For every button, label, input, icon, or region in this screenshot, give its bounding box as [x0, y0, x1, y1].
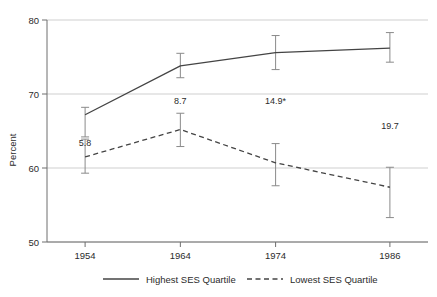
data-annotation: 14.9* — [265, 96, 287, 106]
legend-label: Lowest SES Quartile — [290, 274, 378, 285]
y-axis: 50607080 — [28, 15, 47, 248]
error-bar — [81, 107, 89, 137]
series-group — [81, 33, 394, 218]
y-tick-label: 50 — [28, 237, 39, 248]
error-bar — [386, 33, 394, 63]
x-tick-label: 1986 — [379, 250, 400, 261]
chart-legend: Highest SES QuartileLowest SES Quartile — [103, 274, 378, 285]
x-tick-label: 1974 — [265, 250, 286, 261]
gridlines — [47, 20, 428, 242]
data-annotation: 8.7 — [174, 96, 187, 106]
chart-container: 50607080 1954196419741986 Percent 5.88.7… — [0, 0, 437, 297]
y-tick-label: 60 — [28, 163, 39, 174]
x-tick-label: 1964 — [170, 250, 191, 261]
x-tick-label: 1954 — [75, 250, 96, 261]
error-bar — [386, 167, 394, 217]
series-highest-ses — [81, 33, 394, 137]
y-tick-label: 70 — [28, 89, 39, 100]
x-axis: 1954196419741986 — [47, 242, 428, 261]
series-line-lowest-ses — [85, 130, 390, 188]
y-axis-title: Percent — [7, 133, 18, 166]
y-tick-label: 80 — [28, 15, 39, 26]
data-annotation: 19.7 — [381, 121, 399, 131]
series-lowest-ses — [81, 113, 394, 217]
annotation-group: 5.88.714.9*19.7 — [79, 96, 399, 147]
series-line-highest-ses — [85, 48, 390, 115]
ses-quartile-line-chart: 50607080 1954196419741986 Percent 5.88.7… — [0, 0, 437, 297]
error-bar — [272, 144, 280, 186]
legend-label: Highest SES Quartile — [146, 274, 236, 285]
data-annotation: 5.8 — [79, 138, 92, 148]
